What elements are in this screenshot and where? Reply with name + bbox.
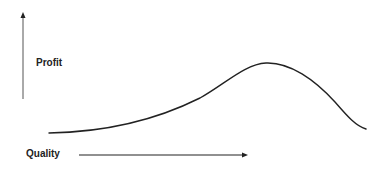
- x-axis-label: Quality: [26, 148, 60, 159]
- y-axis-arrow: [21, 12, 26, 99]
- diagram-graphics: [0, 0, 386, 170]
- profit-quality-diagram: Profit Quality: [0, 0, 386, 170]
- x-axis-arrow: [79, 153, 248, 158]
- y-axis-label: Profit: [36, 57, 62, 68]
- profit-curve: [49, 63, 366, 133]
